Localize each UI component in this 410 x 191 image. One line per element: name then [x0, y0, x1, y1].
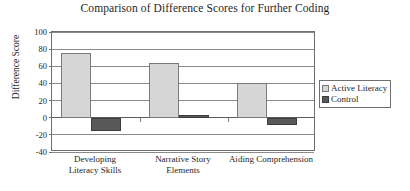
y-tick-mark	[49, 152, 52, 153]
legend-swatch-icon	[322, 96, 329, 103]
y-tick-label: 40	[19, 79, 47, 88]
gridline	[52, 49, 314, 50]
y-tick-label: 60	[19, 62, 47, 71]
y-tick-label: 20	[19, 96, 47, 105]
gridline	[52, 32, 314, 33]
group-separator-tick	[228, 118, 229, 122]
bar-control-0	[91, 118, 121, 132]
legend-item-active-literacy: Active Literacy	[322, 83, 387, 94]
chart-screenshot: Comparison of Difference Scores for Furt…	[0, 0, 410, 191]
x-axis-label-line: Literacy Skills	[51, 165, 139, 176]
bar-active-literacy-0	[61, 53, 91, 118]
bar-control-1	[179, 115, 209, 118]
legend-label: Control	[331, 94, 359, 105]
bar-control-2	[267, 118, 297, 125]
x-axis-label-0: DevelopingLiteracy Skills	[51, 154, 139, 176]
x-axis-label-line: Narrative Story	[139, 154, 227, 165]
gridline	[52, 134, 314, 135]
y-tick-mark	[49, 66, 52, 67]
gridline	[52, 100, 314, 101]
gridline	[52, 152, 314, 153]
y-tick-mark	[49, 49, 52, 50]
x-axis-label-line: Aiding Comprehension	[227, 154, 315, 165]
chart-title: Comparison of Difference Scores for Furt…	[0, 2, 410, 14]
group-separator-tick	[140, 118, 141, 122]
gridline	[52, 83, 314, 84]
y-tick-mark	[49, 32, 52, 33]
y-tick-mark	[49, 117, 52, 118]
y-tick-label: -40	[19, 148, 47, 157]
y-tick-label: 100	[19, 28, 47, 37]
x-axis-label-line: Elements	[139, 165, 227, 176]
legend-swatch-icon	[322, 85, 329, 92]
plot-area: 100806040200-20-40	[51, 31, 315, 151]
legend-item-control: Control	[322, 94, 387, 105]
x-axis-label-line: Developing	[51, 154, 139, 165]
x-axis-label-1: Narrative StoryElements	[139, 154, 227, 176]
legend-label: Active Literacy	[331, 83, 387, 94]
x-axis-label-2: Aiding Comprehension	[227, 154, 315, 165]
bar-active-literacy-1	[149, 63, 179, 118]
y-tick-label: 0	[19, 113, 47, 122]
bar-active-literacy-2	[237, 83, 267, 118]
y-tick-mark	[49, 83, 52, 84]
chart-legend: Active LiteracyControl	[319, 80, 391, 108]
y-tick-label: 80	[19, 45, 47, 54]
y-tick-mark	[49, 100, 52, 101]
y-tick-label: -20	[19, 131, 47, 140]
y-tick-mark	[49, 134, 52, 135]
gridline	[52, 66, 314, 67]
